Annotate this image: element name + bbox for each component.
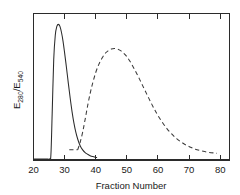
x-axis-title: Fraction Number xyxy=(96,180,167,191)
x-axis-ticks-bottom xyxy=(34,155,221,160)
x-tick-label: 60 xyxy=(153,164,164,175)
y-axis-title: E280/E540 xyxy=(11,71,24,109)
x-tick-label: 70 xyxy=(184,164,195,175)
x-tick-label: 40 xyxy=(90,164,101,175)
x-tick-label: 20 xyxy=(28,164,39,175)
x-axis-ticks-top xyxy=(34,14,221,19)
chart-series-dashed-peak xyxy=(78,48,217,153)
plot-frame xyxy=(34,14,230,161)
x-tick-label: 50 xyxy=(122,164,133,175)
y-axis-title-sub1: 280 xyxy=(17,91,24,103)
y-axis-title-slash: /E xyxy=(11,82,22,91)
y-axis-title-text: E280/E540 xyxy=(11,71,24,109)
chart-series-group xyxy=(34,24,218,159)
x-axis-tick-labels: 20304050607080 xyxy=(28,164,225,175)
x-tick-label: 30 xyxy=(59,164,70,175)
chart-series-solid-peak xyxy=(34,24,97,159)
x-tick-label: 80 xyxy=(215,164,226,175)
elution-profile-chart: 20304050607080 Fraction Number E280/E540 xyxy=(0,0,240,195)
y-axis-title-sub2: 540 xyxy=(17,71,24,83)
chart-figure: 20304050607080 Fraction Number E280/E540 xyxy=(0,0,240,195)
